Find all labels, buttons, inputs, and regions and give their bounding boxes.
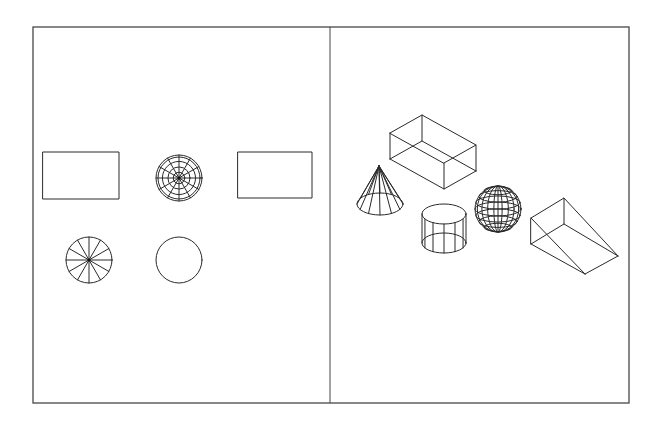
wireframe-figure — [0, 0, 646, 430]
wedge-isometric — [531, 198, 618, 274]
cylinder-top-view — [156, 237, 202, 283]
right-panel-isometric-views — [357, 115, 618, 274]
wedge-top-view — [238, 152, 312, 198]
cylinder-isometric — [422, 204, 466, 253]
sphere-top-view — [156, 155, 202, 201]
sphere-isometric — [475, 186, 521, 232]
figure-canvas — [0, 0, 646, 430]
box-isometric — [390, 115, 476, 189]
box-top-view — [43, 152, 119, 199]
cone-top-view — [66, 237, 112, 283]
left-panel-plan-views — [43, 152, 312, 283]
cone-isometric — [357, 166, 403, 215]
figure-frame — [33, 27, 629, 403]
